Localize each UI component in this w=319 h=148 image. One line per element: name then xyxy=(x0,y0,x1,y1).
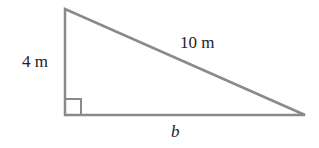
right-angle-marker xyxy=(65,99,81,115)
height-label: 4 m xyxy=(22,52,48,71)
right-triangle-diagram: 4 m 10 m b xyxy=(0,0,319,148)
base-label: b xyxy=(171,122,180,141)
hypotenuse-label: 10 m xyxy=(180,33,214,52)
triangle xyxy=(65,9,305,115)
